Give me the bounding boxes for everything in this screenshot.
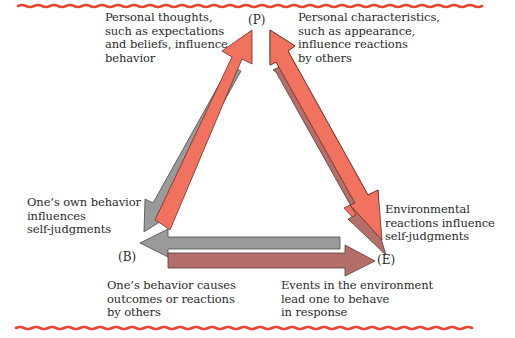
label-personal-thoughts: Personal thoughts, such as expectations … (105, 11, 228, 65)
diagram-canvas: (P) (B) (E) Personal thoughts, such as e… (0, 0, 515, 338)
top-wave-border (18, 5, 482, 7)
node-p-label: (P) (248, 13, 265, 27)
label-own-behavior-self-judgments: One’s own behavior influences self-judgm… (27, 196, 141, 237)
label-personal-characteristics: Personal characteristics, such as appear… (298, 11, 440, 65)
arrow-e-to-p (273, 66, 386, 255)
arrow-b-to-e (168, 245, 375, 276)
label-behavior-causes-outcomes: One’s behavior causes outcomes or reacti… (107, 279, 236, 320)
label-environment-events: Events in the environment lead one to be… (281, 279, 433, 320)
node-e-label: (E) (377, 253, 395, 267)
label-environmental-reactions: Environmental reactions influence self-j… (385, 203, 495, 244)
bottom-wave-border (16, 327, 472, 329)
node-b-label: (B) (118, 250, 136, 264)
